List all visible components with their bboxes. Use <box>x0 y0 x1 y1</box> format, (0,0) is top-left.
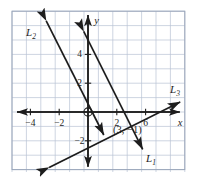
y-tick-label: 4 <box>77 49 82 59</box>
line-label-L2-subscript: 2 <box>32 32 36 41</box>
line-label-L3-subscript: 3 <box>175 89 180 98</box>
line-label-L1: L1 <box>145 152 156 167</box>
graph-svg: −4 −2 2 6 4 2 −2 x y L2 L3 L1 (3, −1) <box>0 0 198 179</box>
y-tick-label: −2 <box>74 136 84 146</box>
coordinate-plane-figure: −4 −2 2 6 4 2 −2 x y L2 L3 L1 (3, −1) <box>0 0 198 179</box>
line-label-L3-letter: L <box>169 83 176 95</box>
y-axis-label: y <box>93 15 99 26</box>
x-axis-label: x <box>177 117 183 128</box>
point-label: (3, −1) <box>113 124 142 136</box>
x-tick-label: −4 <box>25 118 35 128</box>
x-tick-label: 6 <box>143 118 148 128</box>
grid-lines <box>12 11 185 172</box>
x-tick-label: −2 <box>54 118 64 128</box>
line-label-L1-subscript: 1 <box>152 158 156 167</box>
y-tick-label: 2 <box>77 78 82 88</box>
line-label-L1-letter: L <box>145 152 152 164</box>
line-label-L2-letter: L <box>25 26 32 38</box>
